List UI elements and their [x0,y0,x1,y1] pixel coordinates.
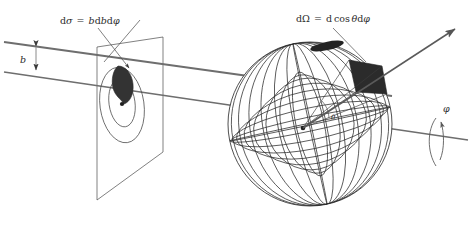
cross-section-eq: = [77,15,85,26]
azimuthal-rotation-arrow [440,122,444,160]
azimuthal-angle-label: φ [443,103,450,114]
solid-angle-omega: Ω [302,13,310,24]
cross-section-phi: φ [113,15,120,26]
impact-parameter-label: b [20,54,26,65]
solid-angle-d2: d [326,13,332,24]
solid-angle-eq: = [314,13,322,24]
impact-parameter-plane [97,37,163,200]
cross-section-sigma: σ [66,15,73,26]
impact-parameter-bracket: b [20,47,36,71]
beam-axis-center-dot [120,102,124,106]
solid-angle-cos: cos [334,13,350,24]
cross-section-label: dσ=bdbdφ [60,15,120,26]
solid-angle-phi: φ [363,13,370,24]
azimuthal-rotation-axis [429,118,436,166]
solid-angle-label: dΩ=dcosθdφ [296,13,370,24]
scattering-diagram: b dσ=bdbdφ [0,0,476,230]
